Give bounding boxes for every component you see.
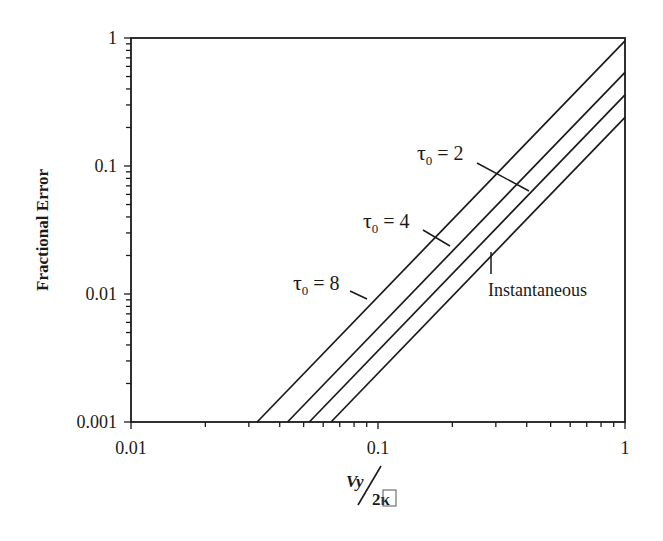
y-tick-label: 0.001 bbox=[77, 412, 118, 432]
series-line bbox=[309, 95, 625, 422]
annotation-leader bbox=[423, 230, 450, 246]
annotation-label: τ0 = 2 bbox=[417, 140, 464, 168]
annotation-leader bbox=[350, 291, 367, 299]
axis-tick-labels: 0.010.110.0010.010.11 bbox=[77, 28, 630, 458]
annotation-label: Instantaneous bbox=[488, 280, 587, 300]
data-series bbox=[257, 41, 625, 422]
x-tick-label: 0.01 bbox=[115, 438, 147, 458]
y-axis-title: Fractional Error bbox=[33, 169, 52, 291]
y-tick-label: 1 bbox=[108, 28, 117, 48]
series-line bbox=[288, 72, 626, 422]
annotation-label: τ0 = 4 bbox=[363, 208, 410, 236]
x-tick-label: 0.1 bbox=[367, 438, 390, 458]
chart: 0.010.110.0010.010.11 τ0 = 2τ0 = 4τ0 = 8… bbox=[0, 0, 663, 541]
y-tick-label: 0.1 bbox=[95, 156, 118, 176]
series-annotations: τ0 = 2τ0 = 4τ0 = 8Instantaneous bbox=[293, 140, 587, 300]
y-tick-label: 0.01 bbox=[86, 284, 118, 304]
x-axis-title: Vy 2κ bbox=[346, 466, 396, 509]
annotation-label: τ0 = 8 bbox=[293, 270, 340, 298]
series-line bbox=[257, 41, 625, 422]
x-tick-label: 1 bbox=[621, 438, 630, 458]
x-axis-title-numerator: Vy bbox=[346, 472, 364, 491]
